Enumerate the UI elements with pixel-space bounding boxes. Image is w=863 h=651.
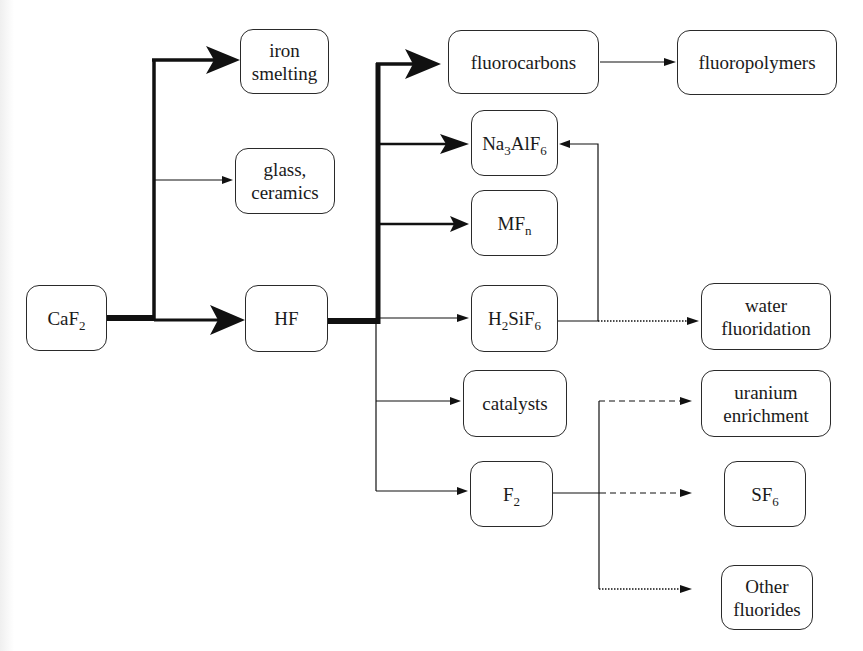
edge-h2sif6-to-na3alf6 xyxy=(557,144,598,321)
h2sif6-p1: H xyxy=(488,308,502,329)
sf6-base: SF xyxy=(751,484,772,505)
node-iron-smelting: ironsmelting xyxy=(240,29,329,94)
uranium-line2: enrichment xyxy=(723,405,808,426)
node-catalysts: catalysts xyxy=(463,370,567,437)
node-water-fluoridation: waterfluoridation xyxy=(701,283,831,350)
na3alf6-p1: Na xyxy=(482,133,504,154)
other-line2: fluorides xyxy=(733,599,801,620)
node-uranium-enrichment: uraniumenrichment xyxy=(701,370,831,437)
fluoropolymers-label: fluoropolymers xyxy=(698,51,815,74)
glass-line1: glass, xyxy=(264,159,307,180)
node-fluorocarbons: fluorocarbons xyxy=(448,30,599,94)
h2sif6-p2: SiF xyxy=(508,308,534,329)
mfn-base: MF xyxy=(498,213,525,234)
h2sif6-s2: 6 xyxy=(535,318,542,333)
caf2-base: CaF xyxy=(47,308,79,329)
f2-sub: 2 xyxy=(514,494,521,509)
water-line2: fluoridation xyxy=(721,318,811,339)
hf-label: HF xyxy=(274,307,298,330)
other-line1: Other xyxy=(745,576,788,597)
fluorocarbons-label: fluorocarbons xyxy=(471,51,577,74)
iron-line1: iron xyxy=(269,40,300,61)
node-caf2: CaF2 xyxy=(26,285,107,351)
node-sf6: SF6 xyxy=(724,461,806,527)
node-fluoropolymers: fluoropolymers xyxy=(677,30,837,95)
f2-base: F xyxy=(503,484,514,505)
na3alf6-s2: 6 xyxy=(540,143,547,158)
glass-line2: ceramics xyxy=(251,182,319,203)
node-hf: HF xyxy=(245,285,328,352)
node-na3alf6: Na3AlF6 xyxy=(471,110,558,176)
uranium-line1: uranium xyxy=(734,382,797,403)
node-h2sif6: H2SiF6 xyxy=(471,285,558,352)
iron-line2: smelting xyxy=(252,63,317,84)
node-glass-ceramics: glass,ceramics xyxy=(235,148,335,214)
node-other-fluorides: Otherfluorides xyxy=(721,565,813,630)
caf2-sub: 2 xyxy=(79,318,86,333)
node-mfn: MFn xyxy=(471,190,558,256)
sf6-sub: 6 xyxy=(772,494,779,509)
na3alf6-p2: AlF xyxy=(511,133,541,154)
water-line1: water xyxy=(745,295,787,316)
mfn-sub: n xyxy=(525,223,532,238)
node-f2: F2 xyxy=(470,461,553,527)
catalysts-label: catalysts xyxy=(482,392,547,415)
